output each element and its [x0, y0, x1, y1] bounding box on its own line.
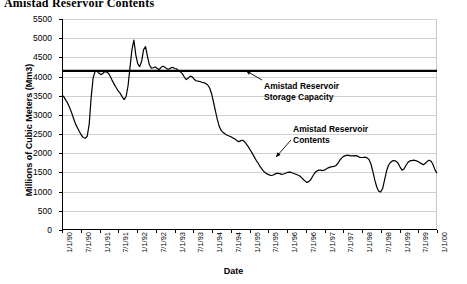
- y-tick-mark: [59, 192, 62, 193]
- x-tick-label: 7/1/97: [346, 232, 355, 253]
- x-tick-label: 1/1/00: [440, 232, 449, 253]
- x-tick-label: 7/1/90: [84, 232, 93, 253]
- capacity-annotation-line1: Amistad Reservoir: [264, 81, 339, 92]
- y-tick-label: 4000: [33, 72, 52, 82]
- y-tick-mark: [59, 115, 62, 116]
- y-tick-mark: [59, 38, 62, 39]
- y-tick-label: 2500: [33, 129, 52, 139]
- x-tick-label: 7/1/94: [234, 232, 243, 253]
- y-tick-label: 2000: [33, 148, 52, 158]
- contents-annotation-line1: Amistad Reservoir: [293, 124, 368, 135]
- x-tick-label: 1/1/98: [365, 232, 374, 253]
- y-tick-mark: [59, 19, 62, 20]
- contents-annotation: Amistad Reservoir Contents: [293, 124, 368, 146]
- x-axis-tick-labels: 1/1/907/1/901/1/917/1/911/1/927/1/921/1/…: [62, 232, 437, 266]
- x-tick-label: 7/1/99: [421, 232, 430, 253]
- y-tick-mark: [59, 153, 62, 154]
- y-tick-mark: [59, 96, 62, 97]
- chart-figure: Amistad Reservoir Contents Millions of C…: [0, 0, 467, 284]
- y-axis-tick-labels: 0500100015002000250030003500400045005000…: [0, 19, 58, 230]
- y-tick-label: 5500: [33, 14, 52, 24]
- plot-area: [62, 19, 437, 230]
- y-tick-label: 3000: [33, 110, 52, 120]
- x-tick-label: 1/1/97: [328, 232, 337, 253]
- x-tick-label: 7/1/91: [121, 232, 130, 253]
- x-tick-label: 1/1/91: [103, 232, 112, 253]
- y-tick-mark: [59, 57, 62, 58]
- capacity-annotation: Amistad Reservoir Storage Capacity: [264, 81, 339, 103]
- x-tick-label: 1/1/92: [140, 232, 149, 253]
- y-tick-label: 0: [47, 225, 52, 235]
- x-tick-label: 7/1/92: [159, 232, 168, 253]
- x-tick-label: 1/1/96: [290, 232, 299, 253]
- x-tick-label: 1/1/99: [403, 232, 412, 253]
- y-tick-mark: [59, 211, 62, 212]
- x-tick-label: 7/1/95: [271, 232, 280, 253]
- y-tick-label: 5000: [33, 33, 52, 43]
- x-tick-label: 1/1/93: [178, 232, 187, 253]
- x-tick-label: 7/1/93: [196, 232, 205, 253]
- y-tick-label: 500: [38, 206, 52, 216]
- y-tick-mark: [59, 134, 62, 135]
- chart-title: Amistad Reservoir Contents: [4, 0, 154, 11]
- y-tick-label: 1500: [33, 167, 52, 177]
- y-tick-mark: [59, 77, 62, 78]
- y-tick-mark: [59, 172, 62, 173]
- y-tick-label: 4500: [33, 52, 52, 62]
- contents-line: [62, 40, 437, 192]
- x-tick-label: 1/1/94: [215, 232, 224, 253]
- x-tick-label: 1/1/90: [65, 232, 74, 253]
- y-tick-label: 1000: [33, 187, 52, 197]
- data-series-layer: [62, 19, 437, 230]
- x-tick-label: 1/1/95: [253, 232, 262, 253]
- x-axis-title: Date: [0, 266, 467, 276]
- contents-annotation-line2: Contents: [293, 135, 368, 146]
- x-tick-mark: [437, 230, 438, 233]
- capacity-annotation-line2: Storage Capacity: [264, 92, 339, 103]
- y-tick-label: 3500: [33, 91, 52, 101]
- x-tick-label: 7/1/96: [309, 232, 318, 253]
- x-tick-label: 7/1/98: [384, 232, 393, 253]
